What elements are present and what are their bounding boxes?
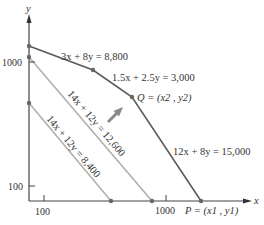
y-tick-label-100: 100	[8, 181, 23, 192]
y-tick-label-1000: 1000	[2, 57, 22, 68]
y-axis-label: y	[25, 3, 31, 14]
point-P	[199, 199, 203, 203]
x-axis	[29, 199, 252, 204]
constraint-label-c2: 1.5x + 2.5y = 3,000	[112, 72, 195, 83]
point-x-intercept-obj-high	[150, 199, 154, 203]
point-y-intercept-obj-low	[27, 101, 31, 105]
x-tick-label-100: 100	[35, 206, 50, 217]
x-axis-arrow-icon	[243, 199, 252, 204]
y-axis	[27, 14, 32, 201]
constraint-label-c1: 3x + 8y = 8,800	[61, 51, 128, 62]
point-label-Q: Q = (x2 , y2)	[137, 92, 192, 104]
x-tick-label-1000: 1000	[155, 205, 175, 216]
point-y-intercept-c1	[27, 44, 31, 48]
point-Q	[130, 95, 134, 99]
linear-programming-diagram: y x 1000 100 100 1000 3x + 8y = 8,800 1.…	[0, 0, 264, 225]
point-x-intercept-obj-low	[109, 199, 113, 203]
constraint-label-c3: 12x + 8y = 15,000	[173, 146, 250, 157]
point-y-intercept-obj-high	[27, 55, 31, 59]
point-label-P: P = (x1 , y1)	[184, 205, 239, 217]
x-axis-label: x	[253, 195, 259, 206]
y-axis-arrow-icon	[27, 14, 32, 23]
increasing-direction-arrow-icon	[108, 107, 123, 122]
point-corner-c1-c2	[91, 68, 95, 72]
